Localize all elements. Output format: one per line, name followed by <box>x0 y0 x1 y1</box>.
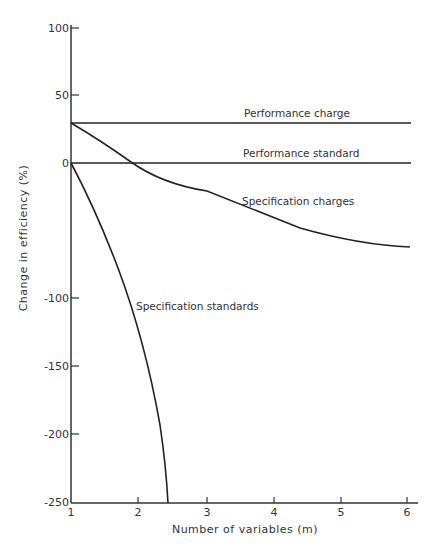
y-tick-100: 100 <box>48 22 69 35</box>
x-tick-2: 2 <box>135 506 142 519</box>
y-tick-labels: 100 50 0 -100 -150 -200 -250 <box>44 22 69 509</box>
x-tick-1: 1 <box>68 506 75 519</box>
y-tick-m250: -250 <box>44 496 69 509</box>
series-specification-charges <box>71 123 410 247</box>
series-specification-standards <box>71 163 168 503</box>
efficiency-chart: 100 50 0 -100 -150 -200 -250 1 2 3 4 5 6… <box>0 0 432 552</box>
label-specification-charges: Specification charges <box>242 195 354 207</box>
y-ticks <box>71 28 79 434</box>
label-performance-standard: Performance standard <box>243 147 359 159</box>
x-ticks <box>138 497 407 503</box>
x-tick-4: 4 <box>271 506 278 519</box>
x-tick-labels: 1 2 3 4 5 6 <box>68 506 411 519</box>
y-tick-0: 0 <box>62 157 69 170</box>
y-tick-m150: -150 <box>44 360 69 373</box>
y-axis-title: Change in efficiency (%) <box>17 165 30 312</box>
label-performance-charge: Performance charge <box>244 107 350 119</box>
x-tick-6: 6 <box>404 506 411 519</box>
x-axis-title: Number of variables (m) <box>172 523 318 536</box>
y-tick-m200: -200 <box>44 428 69 441</box>
x-tick-3: 3 <box>204 506 211 519</box>
label-specification-standards: Specification standards <box>136 300 259 312</box>
y-tick-m100: -100 <box>44 292 69 305</box>
y-tick-50: 50 <box>55 89 69 102</box>
x-tick-5: 5 <box>338 506 345 519</box>
